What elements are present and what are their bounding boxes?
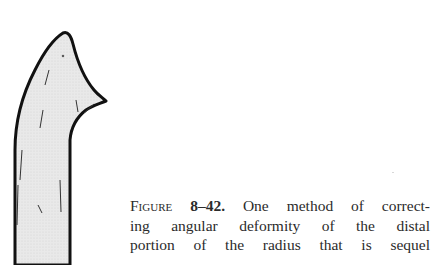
- paper-speck: [392, 172, 394, 173]
- bone-illustration: [0, 0, 140, 265]
- caption-text: One method of correct-: [243, 197, 430, 214]
- caption-line-1: Figure 8–42. One method of correct-: [130, 196, 430, 216]
- bone-drawing-icon: [0, 0, 140, 265]
- figure-caption: Figure 8–42. One method of correct- ing …: [130, 196, 430, 255]
- caption-number: 8–42.: [190, 197, 225, 214]
- caption-line-3: portion of the radius that is sequel: [130, 235, 430, 255]
- caption-label: Figure: [130, 197, 172, 214]
- caption-line-2: ing angular deformity of the distal: [130, 216, 430, 236]
